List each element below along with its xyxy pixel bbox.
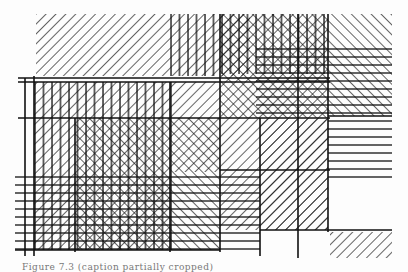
top-crosshatch-h [256, 48, 328, 118]
upper-mid-diagonal [75, 82, 220, 118]
hatched-figure [0, 0, 408, 272]
bottom-horizontal-lines [15, 172, 260, 252]
mid-crosshatch-right [170, 118, 220, 172]
right-horizontal-lines [328, 48, 392, 180]
bottom-right-diagonal [330, 232, 392, 258]
figure-caption: Figure 7.3 (caption partially cropped) [22, 262, 213, 272]
top-vertical-stripes [170, 14, 220, 76]
mid-diagonal-upper [260, 118, 328, 230]
